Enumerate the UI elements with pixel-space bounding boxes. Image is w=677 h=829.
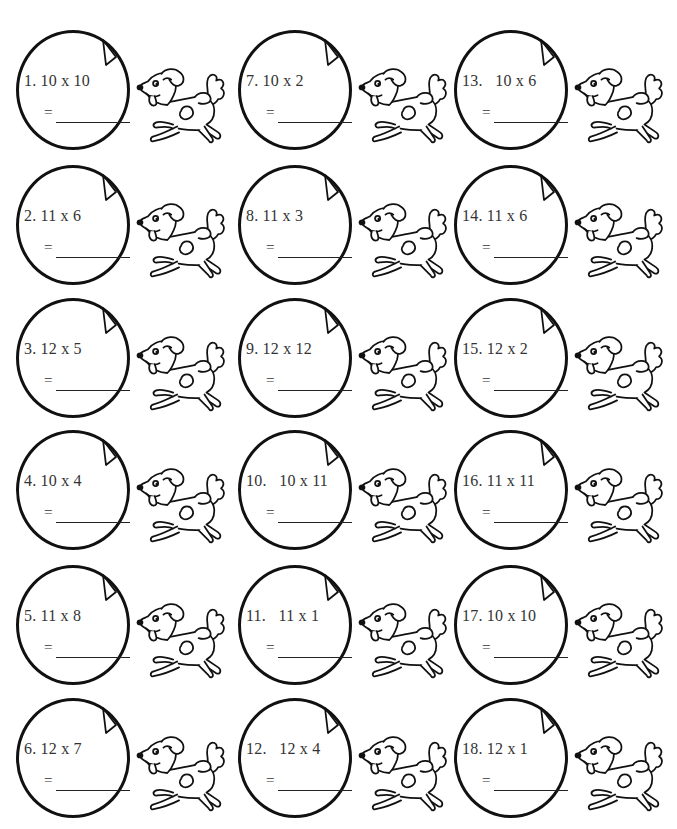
equals-sign: = — [482, 639, 490, 656]
paper-corner-triangle-icon — [538, 438, 556, 468]
problem-text: 6. 12 x 7 — [24, 740, 82, 758]
answer-input[interactable] — [56, 506, 130, 523]
problem-cell: 4. 10 x 4 = — [16, 430, 238, 560]
running-dog-icon — [356, 197, 454, 283]
running-dog-icon — [356, 62, 454, 148]
paper-corner-triangle-icon — [538, 173, 556, 203]
problem-cell: 10. 10 x 11 = — [238, 430, 460, 560]
equals-sign: = — [266, 104, 274, 121]
problem-cell: 1. 10 x 10 = — [16, 30, 238, 160]
equals-sign: = — [266, 639, 274, 656]
running-dog-icon — [572, 62, 670, 148]
paper-corner-triangle-icon — [322, 306, 340, 336]
equals-sign: = — [266, 772, 274, 789]
answer-input[interactable] — [56, 241, 130, 258]
problem-text: 12. 12 x 4 — [246, 740, 320, 758]
paper-corner-triangle-icon — [322, 573, 340, 603]
running-dog-icon — [134, 597, 232, 683]
paper-corner-triangle-icon — [100, 38, 118, 68]
running-dog-icon — [134, 462, 232, 548]
answer-input[interactable] — [56, 774, 130, 791]
problem-cell: 18. 12 x 1 = — [454, 698, 676, 828]
problem-text: 1. 10 x 10 — [24, 72, 90, 90]
equals-sign: = — [482, 372, 490, 389]
problem-cell: 17. 10 x 10 = — [454, 565, 676, 695]
running-dog-icon — [356, 597, 454, 683]
paper-corner-triangle-icon — [100, 306, 118, 336]
paper-corner-triangle-icon — [322, 38, 340, 68]
problem-cell: 11. 11 x 1 = — [238, 565, 460, 695]
running-dog-icon — [572, 462, 670, 548]
problem-cell: 8. 11 x 3 = — [238, 165, 460, 295]
problem-cell: 12. 12 x 4 = — [238, 698, 460, 828]
equals-sign: = — [44, 639, 52, 656]
answer-input[interactable] — [494, 506, 568, 523]
answer-input[interactable] — [278, 774, 352, 791]
paper-corner-triangle-icon — [100, 173, 118, 203]
problem-text: 18. 12 x 1 — [462, 740, 528, 758]
problem-text: 5. 11 x 8 — [24, 607, 81, 625]
problem-text: 15. 12 x 2 — [462, 340, 528, 358]
problem-cell: 6. 12 x 7 = — [16, 698, 238, 828]
paper-corner-triangle-icon — [538, 706, 556, 736]
answer-input[interactable] — [278, 641, 352, 658]
problem-text: 4. 10 x 4 — [24, 472, 82, 490]
problem-cell: 9. 12 x 12 = — [238, 298, 460, 428]
running-dog-icon — [572, 197, 670, 283]
answer-input[interactable] — [494, 106, 568, 123]
problem-cell: 15. 12 x 2 = — [454, 298, 676, 428]
paper-corner-triangle-icon — [100, 438, 118, 468]
problem-text: 2. 11 x 6 — [24, 207, 81, 225]
equals-sign: = — [266, 239, 274, 256]
equals-sign: = — [482, 772, 490, 789]
equals-sign: = — [44, 504, 52, 521]
problem-text: 8. 11 x 3 — [246, 207, 303, 225]
answer-input[interactable] — [494, 241, 568, 258]
paper-corner-triangle-icon — [322, 706, 340, 736]
problem-text: 9. 12 x 12 — [246, 340, 312, 358]
answer-input[interactable] — [56, 106, 130, 123]
running-dog-icon — [356, 330, 454, 416]
equals-sign: = — [44, 104, 52, 121]
running-dog-icon — [356, 462, 454, 548]
paper-corner-triangle-icon — [538, 38, 556, 68]
cut-off-instructions-text — [0, 0, 677, 4]
problem-text: 16. 11 x 11 — [462, 472, 535, 490]
answer-input[interactable] — [278, 106, 352, 123]
answer-input[interactable] — [494, 374, 568, 391]
equals-sign: = — [482, 504, 490, 521]
answer-input[interactable] — [278, 374, 352, 391]
paper-corner-triangle-icon — [538, 573, 556, 603]
problem-cell: 2. 11 x 6 = — [16, 165, 238, 295]
problem-cell: 3. 12 x 5 = — [16, 298, 238, 428]
paper-corner-triangle-icon — [322, 438, 340, 468]
answer-input[interactable] — [56, 641, 130, 658]
problem-text: 10. 10 x 11 — [246, 472, 328, 490]
answer-input[interactable] — [494, 641, 568, 658]
paper-corner-triangle-icon — [538, 306, 556, 336]
running-dog-icon — [356, 730, 454, 816]
paper-corner-triangle-icon — [100, 573, 118, 603]
running-dog-icon — [572, 730, 670, 816]
running-dog-icon — [572, 330, 670, 416]
problem-cell: 5. 11 x 8 = — [16, 565, 238, 695]
running-dog-icon — [134, 330, 232, 416]
running-dog-icon — [134, 197, 232, 283]
answer-input[interactable] — [56, 374, 130, 391]
answer-input[interactable] — [494, 774, 568, 791]
problem-cell: 13. 10 x 6 = — [454, 30, 676, 160]
paper-corner-triangle-icon — [100, 706, 118, 736]
equals-sign: = — [44, 239, 52, 256]
problem-text: 11. 11 x 1 — [246, 607, 319, 625]
equals-sign: = — [44, 372, 52, 389]
running-dog-icon — [572, 597, 670, 683]
problem-text: 3. 12 x 5 — [24, 340, 82, 358]
answer-input[interactable] — [278, 241, 352, 258]
equals-sign: = — [266, 372, 274, 389]
problem-text: 17. 10 x 10 — [462, 607, 536, 625]
equals-sign: = — [482, 104, 490, 121]
problem-text: 13. 10 x 6 — [462, 72, 536, 90]
answer-input[interactable] — [278, 506, 352, 523]
problem-text: 14. 11 x 6 — [462, 207, 527, 225]
equals-sign: = — [482, 239, 490, 256]
